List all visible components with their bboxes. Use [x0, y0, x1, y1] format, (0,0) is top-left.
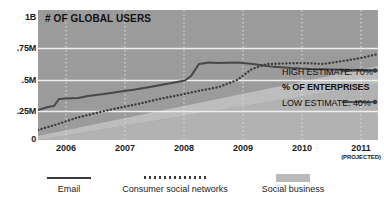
y-axis: 1B .75M .5M .25M 0 — [0, 0, 36, 150]
legend-label-consumer-social-networks: Consumer social networks — [110, 184, 240, 194]
legend-item-email: Email — [34, 172, 104, 194]
x-tick-sublabel-projected: (PROJECTED) — [331, 154, 384, 160]
chart-figure: 1B .75M .5M .25M 0 — [0, 0, 384, 207]
y-tick-label-75m: .75M — [17, 44, 36, 53]
filled-area-icon — [276, 174, 310, 182]
chart-title: # OF GLOBAL USERS — [45, 13, 151, 24]
solid-line-icon — [47, 177, 91, 179]
legend-label-social-business: Social business — [243, 184, 343, 194]
legend-swatch-consumer-social-networks — [110, 172, 240, 182]
legend-item-social-business: Social business — [243, 172, 343, 194]
annotation-high-estimate: HIGH ESTIMATE: 70% — [282, 67, 373, 77]
dotted-line-icon — [144, 176, 206, 179]
annotation-low-estimate: LOW ESTIMATE: 40% — [282, 98, 371, 108]
plot-area: # OF GLOBAL USERS HIGH ESTIMATE: 70% % O… — [38, 10, 378, 140]
y-tick-label-25m: .25M — [17, 107, 36, 116]
legend-item-consumer-social-networks: Consumer social networks — [110, 172, 240, 194]
legend-swatch-email — [34, 172, 104, 182]
chart-legend: Email Consumer social networks Social bu… — [0, 172, 384, 202]
x-tick-label-2008: 2008 — [154, 143, 214, 153]
x-tick-label-2011: 2011 — [331, 143, 384, 153]
x-tick-label-2010: 2010 — [272, 143, 332, 153]
x-tick-label-2006: 2006 — [36, 143, 96, 153]
annotation-series-label: % OF ENTERPRISES — [282, 82, 369, 92]
y-tick-label-1b: 1B — [25, 13, 36, 22]
y-tick-label-5m: .5M — [22, 76, 36, 85]
legend-swatch-social-business — [243, 172, 343, 182]
x-axis: 2006 2007 2008 2009 2010 2011 (PROJECTED… — [38, 143, 378, 167]
legend-label-email: Email — [34, 184, 104, 194]
x-tick-label-2009: 2009 — [213, 143, 273, 153]
x-tick-label-2007: 2007 — [95, 143, 155, 153]
